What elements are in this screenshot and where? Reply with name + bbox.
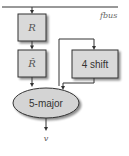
- node-5-major-label: 5-major: [29, 98, 64, 109]
- node-rhat-label: R̂: [27, 58, 36, 69]
- node-rhat: R̂: [18, 50, 46, 77]
- edge-fbus-to-r: [30, 7, 34, 14]
- node-5-major: 5-major: [13, 88, 79, 118]
- output-v-label: v: [44, 134, 49, 143]
- edge-major-to-v: [44, 118, 48, 131]
- diagram-canvas: fbus R R̂ 4 shift 5-major: [0, 0, 129, 156]
- node-4-shift: 4 shift: [72, 50, 118, 78]
- edge-shift-to-major: [61, 78, 94, 90]
- edge-rhat-to-major: [30, 77, 34, 87]
- fbus-label: fbus: [99, 11, 117, 20]
- node-r: R: [18, 14, 46, 41]
- node-4-shift-label: 4 shift: [82, 59, 109, 70]
- node-r-label: R: [27, 22, 36, 33]
- edge-r-to-rhat: [30, 41, 34, 50]
